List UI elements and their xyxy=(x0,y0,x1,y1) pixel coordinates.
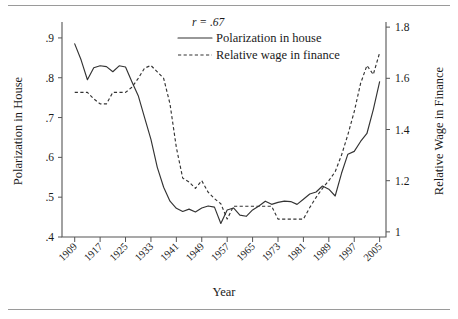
x-axis-tick-label: 2005 xyxy=(361,241,384,264)
x-axis-tick-label: 1981 xyxy=(285,241,308,264)
left-axis: .4.5.6.7.8.9 xyxy=(45,32,62,243)
right-axis-tick-label: 1.6 xyxy=(395,72,410,84)
left-axis-tick-label: .6 xyxy=(45,151,54,163)
x-axis-tick-label: 1917 xyxy=(82,241,105,264)
y-axis-title: Polarization in House xyxy=(11,76,25,185)
x-axis-tick-label: 1925 xyxy=(107,241,130,264)
right-axis-tick-label: 1 xyxy=(395,226,401,238)
x-axis-tick-label: 1997 xyxy=(336,241,359,264)
chart-legend: Polarization in houseRelative wage in fi… xyxy=(178,31,340,62)
x-axis-tick-label: 1989 xyxy=(311,241,334,264)
right-axis-tick-label: 1.8 xyxy=(395,21,410,33)
chart-canvas: .4.5.6.7.8.9 11.21.41.61.8 1909191719251… xyxy=(0,0,458,319)
figure-container: .4.5.6.7.8.9 11.21.41.61.8 1909191719251… xyxy=(0,0,458,319)
left-axis-tick-label: .8 xyxy=(45,72,54,84)
x-axis-tick-label: 1949 xyxy=(184,241,207,264)
right-axis: 11.21.41.61.8 xyxy=(386,21,410,238)
x-axis-tick-label: 1909 xyxy=(56,241,79,264)
left-axis-tick-label: .7 xyxy=(45,112,54,124)
left-axis-tick-label: .9 xyxy=(45,32,54,44)
left-axis-tick-label: .5 xyxy=(45,191,54,203)
x-axis-tick-label: 1957 xyxy=(209,241,232,264)
right-axis-tick-label: 1.2 xyxy=(395,175,410,187)
bottom-rule xyxy=(8,309,450,310)
right-axis-tick-label: 1.4 xyxy=(395,124,410,136)
left-axis-tick-label: .4 xyxy=(45,231,54,243)
legend-label: Relative wage in finance xyxy=(216,48,340,62)
x-axis: 1909191719251933194119491957196519731981… xyxy=(56,237,384,263)
data-series-group xyxy=(75,44,380,224)
series-line-solid xyxy=(75,44,380,224)
x-axis-tick-label: 1973 xyxy=(260,241,283,264)
x-axis-tick-label: 1965 xyxy=(234,241,257,264)
correlation-annotation: r = .67 xyxy=(192,16,226,28)
x-axis-tick-label: 1933 xyxy=(133,241,156,264)
legend-label: Polarization in house xyxy=(216,31,322,45)
top-rule xyxy=(8,5,450,6)
y2-axis-title: Relative Wage in Finance xyxy=(432,66,446,195)
x-axis-title: Year xyxy=(212,285,236,299)
x-axis-tick-label: 1941 xyxy=(158,241,181,264)
